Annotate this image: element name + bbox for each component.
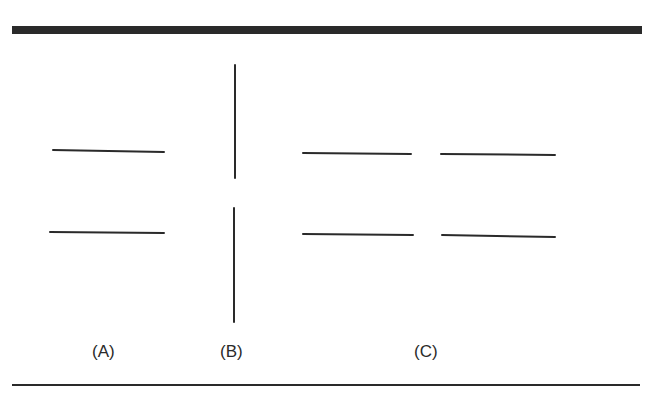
panel-b bbox=[234, 65, 235, 322]
panel-c-line-0 bbox=[303, 153, 411, 154]
label-c: (C) bbox=[414, 342, 438, 362]
line-figure bbox=[0, 0, 654, 394]
bottom-border-rule bbox=[12, 384, 640, 386]
label-b: (B) bbox=[220, 342, 243, 362]
panel-c-line-2 bbox=[303, 234, 413, 235]
label-a: (A) bbox=[92, 342, 115, 362]
panel-a bbox=[50, 150, 164, 233]
panel-a-line-0 bbox=[53, 150, 164, 152]
panel-c-line-1 bbox=[441, 154, 555, 155]
panel-a-line-1 bbox=[50, 232, 164, 233]
panel-c bbox=[303, 153, 555, 237]
panel-c-line-3 bbox=[442, 235, 555, 237]
